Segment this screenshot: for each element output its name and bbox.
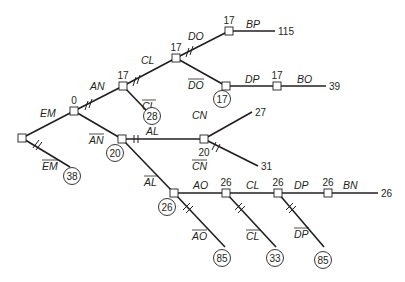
- svg-text:85: 85: [317, 255, 329, 266]
- node-cl2[interactable]: [274, 189, 282, 197]
- edge-label-em-bar: EM: [42, 160, 58, 172]
- edge-label-cn-bar: CN: [192, 160, 208, 172]
- node-value-cl2: 26: [272, 177, 284, 188]
- bound-dp2-bar: 85: [315, 252, 332, 269]
- edge-label-em: EM: [40, 107, 56, 119]
- edge-label-cn: CN: [192, 109, 208, 121]
- bound-an-bar: 20: [107, 145, 124, 162]
- node-ao[interactable]: [222, 189, 230, 197]
- bound-ao-bar: 85: [214, 250, 231, 267]
- svg-text:17: 17: [216, 94, 228, 105]
- node-cl1[interactable]: [172, 54, 180, 62]
- edge-label-cl1: CL: [141, 54, 155, 66]
- bound-al-bar: 26: [159, 199, 176, 216]
- node-value-cl1: 17: [170, 42, 182, 53]
- edge-label-cl2-bar: CL: [246, 230, 260, 242]
- edge-label-al: AL: [145, 125, 159, 137]
- node-an[interactable]: [119, 82, 127, 90]
- node-root[interactable]: [18, 134, 26, 142]
- terminal-values: 115 39 27 31 26: [255, 26, 393, 199]
- node-dp2[interactable]: [324, 189, 332, 197]
- node-al[interactable]: [200, 135, 208, 143]
- edge-label-ao: AO: [192, 179, 208, 191]
- edge-label-bn: BN: [343, 179, 358, 191]
- terminal-value-cn-bar: 31: [261, 161, 273, 172]
- edge-label-dp2: DP: [294, 179, 309, 191]
- svg-text:26: 26: [161, 202, 173, 213]
- edge-label-do: DO: [188, 30, 204, 42]
- node-value-em: 0: [71, 95, 77, 106]
- terminal-value-bn: 26: [381, 188, 393, 199]
- edge-label-do-bar: DO: [188, 79, 204, 91]
- svg-text:28: 28: [146, 111, 158, 122]
- node-value-ao: 26: [220, 177, 232, 188]
- svg-text:38: 38: [66, 171, 78, 182]
- node-value-an: 17: [117, 70, 129, 81]
- edge-labels: EM EM AN AN CL CL DO DO BP DP BO AL AL C…: [40, 18, 358, 242]
- edge-label-ao-bar: AO: [191, 230, 207, 242]
- edge-label-cl2: CL: [246, 179, 260, 191]
- terminal-value-bo: 39: [329, 81, 341, 92]
- edge-label-dp2-bar: DP: [294, 228, 309, 240]
- bound-cl2-bar: 33: [267, 250, 284, 267]
- node-do[interactable]: [225, 27, 233, 35]
- bound-do-bar: 17: [214, 91, 231, 108]
- svg-text:33: 33: [269, 253, 281, 264]
- node-an-bar[interactable]: [118, 135, 126, 143]
- edge-label-bp: BP: [246, 18, 260, 30]
- node-al-bar[interactable]: [170, 189, 178, 197]
- edge-cn: [204, 112, 252, 139]
- node-value-dp1: 17: [271, 70, 283, 81]
- node-value-al: 20: [198, 147, 210, 158]
- edge-cn-bar: [204, 139, 258, 166]
- edge-label-an: AN: [89, 80, 105, 92]
- svg-text:20: 20: [109, 148, 121, 159]
- edge-label-al-bar: AL: [143, 176, 157, 188]
- svg-text:85: 85: [216, 253, 228, 264]
- node-dp1[interactable]: [273, 82, 281, 90]
- bound-cl1-bar: 28: [144, 108, 161, 125]
- edge-label-dp1: DP: [245, 73, 260, 85]
- node-em[interactable]: [70, 107, 78, 115]
- edge-label-an-bar: AN: [88, 134, 104, 146]
- branch-and-bound-tree: 0 17 17 17 17 20 26 26 26 115 39 27 31 2…: [0, 0, 405, 282]
- node-value-do: 17: [223, 15, 235, 26]
- bound-em-bar: 38: [64, 168, 81, 185]
- terminal-value-cn: 27: [255, 107, 267, 118]
- node-do-bar[interactable]: [222, 82, 230, 90]
- edge-label-bo: BO: [297, 73, 312, 85]
- terminal-value-bp: 115: [278, 26, 294, 37]
- node-value-dp2: 26: [322, 177, 334, 188]
